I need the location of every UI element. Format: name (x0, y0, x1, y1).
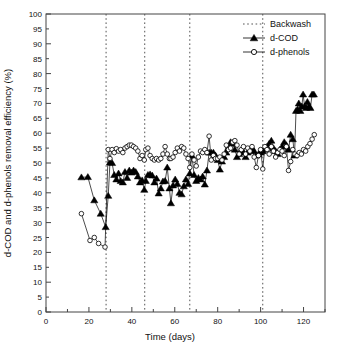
data-point-marker (79, 211, 84, 216)
data-point-marker (186, 156, 191, 161)
x-tick-label: 40 (127, 317, 136, 326)
y-axis-title: d-COD and d-phenols removal efficiency (… (2, 69, 13, 257)
data-point-marker (177, 149, 182, 154)
data-point-marker (273, 155, 278, 160)
y-tick-label: 20 (33, 248, 42, 257)
y-tick-label: 55 (33, 144, 42, 153)
data-point-marker (194, 164, 199, 169)
y-tick-label: 5 (38, 293, 43, 302)
data-point-marker (220, 158, 225, 163)
data-point-marker (103, 245, 108, 250)
data-point-marker (142, 158, 147, 163)
data-point-marker (196, 155, 201, 160)
data-point-marker (136, 149, 141, 154)
data-point-marker (269, 144, 274, 149)
y-tick-label: 60 (33, 129, 42, 138)
data-point-marker (235, 143, 240, 148)
data-point-marker (265, 147, 270, 152)
data-point-marker (237, 152, 242, 157)
data-point-marker (284, 144, 289, 149)
data-point-marker (286, 168, 291, 173)
data-point-marker (121, 150, 126, 155)
y-tick-label: 80 (33, 70, 42, 79)
data-point-marker (308, 141, 313, 146)
data-point-marker (282, 153, 287, 158)
x-axis-title: Time (days) (145, 331, 195, 342)
data-point-marker (205, 150, 210, 155)
data-point-marker (312, 132, 317, 137)
y-tick-label: 70 (33, 99, 42, 108)
legend-label: d-COD (270, 33, 299, 43)
data-point-marker (222, 152, 227, 157)
x-tick-label: 20 (84, 317, 93, 326)
data-point-marker (233, 138, 238, 143)
y-tick-label: 90 (33, 40, 42, 49)
data-point-marker (299, 152, 304, 157)
data-point-marker (303, 149, 308, 154)
data-point-marker (108, 156, 113, 161)
y-tick-label: 65 (33, 114, 42, 123)
y-tick-label: 45 (33, 174, 42, 183)
data-point-marker (192, 158, 197, 163)
y-tick-label: 15 (33, 263, 42, 272)
x-tick-label: 80 (213, 317, 222, 326)
data-point-marker (181, 146, 186, 151)
data-point-marker (140, 153, 145, 158)
data-point-marker (165, 152, 170, 157)
x-tick-label: 0 (44, 317, 49, 326)
data-point-marker (267, 152, 272, 157)
data-point-marker (92, 235, 97, 240)
chart-figure: 020406080100120 051015202530354045505560… (0, 0, 340, 348)
legend-label: d-phenols (270, 47, 310, 57)
data-point-marker (248, 149, 253, 154)
data-point-marker (254, 165, 259, 170)
data-point-marker (190, 152, 195, 157)
data-point-marker (146, 146, 151, 151)
data-point-marker (184, 152, 189, 157)
y-tick-label: 0 (38, 308, 43, 317)
data-point-marker (96, 241, 101, 246)
y-tick-label: 50 (33, 159, 42, 168)
y-tick-label: 100 (29, 10, 43, 19)
data-point-marker (171, 155, 176, 160)
x-tick-label: 100 (254, 317, 268, 326)
y-tick-label: 95 (33, 25, 42, 34)
data-point-marker (207, 134, 212, 139)
y-tick-label: 85 (33, 55, 42, 64)
removal-efficiency-chart: 020406080100120 051015202530354045505560… (0, 0, 340, 348)
y-tick-label: 25 (33, 234, 42, 243)
x-tick-label: 120 (297, 317, 311, 326)
y-tick-label: 10 (33, 278, 42, 287)
data-point-marker (256, 153, 261, 158)
data-point-marker (187, 165, 192, 170)
y-tick-label: 30 (33, 219, 42, 228)
data-point-marker (310, 137, 315, 142)
data-point-marker (258, 147, 263, 152)
data-point-marker (250, 144, 255, 149)
data-point-marker (260, 167, 265, 172)
data-point-marker (163, 144, 168, 149)
legend-label: Backwash (270, 19, 311, 29)
data-point-marker (288, 159, 293, 164)
x-tick-label: 60 (170, 317, 179, 326)
data-point-marker (243, 152, 248, 157)
data-point-marker (159, 156, 164, 161)
data-point-marker (291, 147, 296, 152)
data-point-marker (228, 146, 233, 151)
data-point-marker (88, 238, 93, 243)
circle-marker-icon (251, 49, 256, 54)
y-tick-label: 75 (33, 85, 42, 94)
y-tick-label: 40 (33, 189, 42, 198)
data-point-marker (280, 149, 285, 154)
y-tick-label: 35 (33, 204, 42, 213)
data-point-marker (224, 143, 229, 148)
